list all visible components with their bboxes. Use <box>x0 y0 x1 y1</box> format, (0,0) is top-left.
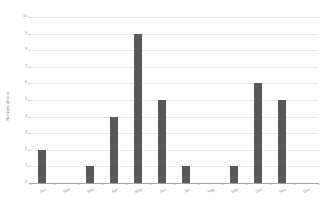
x-tick-mark <box>222 183 223 185</box>
bar-slot <box>246 17 270 183</box>
y-tick-label: 1 <box>25 165 27 169</box>
x-tick-mark <box>78 183 79 185</box>
y-axis: 012345678910 <box>0 0 30 212</box>
x-tick-label: May <box>134 188 143 195</box>
x-tick-label: Jan <box>39 188 46 194</box>
bar[interactable] <box>230 166 238 183</box>
y-tick-label: 2 <box>25 148 27 152</box>
y-tick-label: 8 <box>25 48 27 52</box>
bar[interactable] <box>134 34 142 183</box>
bar-slot <box>126 17 150 183</box>
bar-slot <box>54 17 78 183</box>
y-tick-label: 0 <box>25 181 27 185</box>
x-tick-mark <box>126 183 127 185</box>
x-tick-mark <box>318 183 319 185</box>
x-tick-mark <box>102 183 103 185</box>
bar[interactable] <box>278 100 286 183</box>
y-tick-label: 4 <box>25 115 27 119</box>
x-tick-label: Sep <box>231 188 239 194</box>
bar-slot <box>294 17 318 183</box>
x-tick-mark <box>30 183 31 185</box>
bar[interactable] <box>86 166 94 183</box>
bar[interactable] <box>110 117 118 183</box>
x-tick-label: Jun <box>159 188 166 194</box>
bar-chart: Numbers of birds 012345678910 JanFebMarA… <box>0 0 328 212</box>
x-tick-label: Mar <box>87 188 95 194</box>
x-tick-label: Feb <box>63 188 71 194</box>
bar-slot <box>222 17 246 183</box>
bar-slot <box>270 17 294 183</box>
x-tick-label: Dec <box>303 188 311 194</box>
bar-slot <box>198 17 222 183</box>
x-tick-mark <box>198 183 199 185</box>
y-tick-label: 5 <box>25 98 27 102</box>
y-tick-label: 10 <box>23 15 27 19</box>
y-tick-label: 6 <box>25 82 27 86</box>
x-tick-label: Jul <box>184 188 190 194</box>
bar[interactable] <box>38 150 46 183</box>
y-tick-label: 9 <box>25 32 27 36</box>
bar[interactable] <box>158 100 166 183</box>
x-tick-mark <box>270 183 271 185</box>
y-tick-label: 7 <box>25 65 27 69</box>
x-tick-mark <box>174 183 175 185</box>
bar-slot <box>102 17 126 183</box>
x-tick-label: Aug <box>207 188 215 194</box>
x-tick-label: Nov <box>279 188 287 194</box>
bars-group <box>30 17 318 183</box>
bar-slot <box>30 17 54 183</box>
bar[interactable] <box>182 166 190 183</box>
x-tick-mark <box>150 183 151 185</box>
bar-slot <box>78 17 102 183</box>
bar[interactable] <box>254 83 262 183</box>
x-tick-label: Oct <box>255 188 262 194</box>
x-tick-label: Apr <box>111 188 118 194</box>
x-tick-mark <box>294 183 295 185</box>
y-tick-label: 3 <box>25 131 27 135</box>
x-tick-mark <box>54 183 55 185</box>
bar-slot <box>174 17 198 183</box>
plot-area <box>30 17 318 183</box>
x-tick-mark <box>246 183 247 185</box>
x-axis: JanFebMarAprMayJunJulAugSepOctNovDec <box>30 185 318 212</box>
bar-slot <box>150 17 174 183</box>
